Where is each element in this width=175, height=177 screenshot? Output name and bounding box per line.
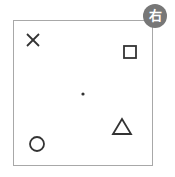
triangle-icon	[113, 119, 131, 134]
circle-icon	[30, 137, 44, 151]
shapes-layer	[0, 0, 175, 177]
cross-icon	[27, 34, 39, 46]
center-dot	[81, 92, 84, 95]
square-icon	[124, 46, 136, 58]
